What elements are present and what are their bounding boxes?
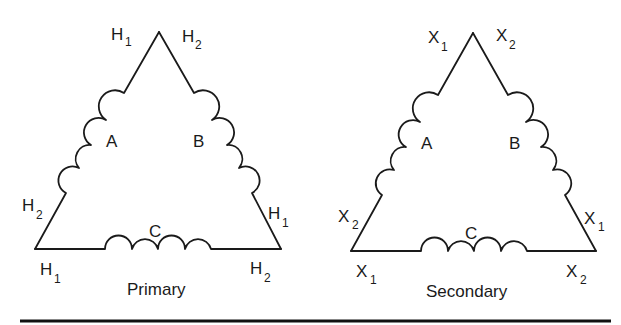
svg-text:1: 1	[441, 40, 448, 54]
svg-text:H: H	[40, 260, 52, 279]
secondary-winding-b-label: B	[509, 134, 520, 153]
svg-text:2: 2	[195, 38, 202, 52]
svg-text:H: H	[250, 259, 262, 278]
svg-text:2: 2	[36, 208, 43, 222]
primary-winding-b-label: B	[193, 132, 204, 151]
svg-text:2: 2	[264, 271, 271, 285]
svg-text:2: 2	[352, 218, 359, 232]
secondary-delta: A B C X 1 X 2 X 2 X 1 X 1 X 2 Secondary	[338, 26, 605, 301]
primary-terminal-bottom-right: H 2	[250, 259, 271, 285]
primary-winding-a	[35, 32, 159, 249]
svg-text:H: H	[22, 196, 34, 215]
primary-terminal-apex-right: H 2	[182, 27, 202, 52]
svg-text:1: 1	[282, 216, 289, 230]
svg-text:X: X	[584, 209, 595, 228]
svg-text:X: X	[496, 26, 507, 45]
primary-winding-c-label: C	[149, 222, 161, 241]
secondary-winding-a	[351, 33, 473, 251]
primary-winding-a-label: A	[106, 132, 118, 151]
svg-text:2: 2	[509, 38, 516, 52]
svg-text:H: H	[268, 204, 280, 223]
primary-delta: A B C H 1 H 2 H 2 H 1 H 1 H 2 Primary	[22, 25, 289, 299]
primary-terminal-right-side: H 1	[268, 204, 289, 230]
svg-text:H: H	[111, 25, 123, 44]
svg-text:2: 2	[580, 273, 587, 287]
secondary-terminal-bottom-left: X 1	[356, 262, 377, 287]
secondary-terminal-bottom-right: X 2	[566, 262, 587, 287]
primary-terminal-left-side: H 2	[22, 196, 43, 222]
primary-winding-b	[159, 32, 281, 249]
svg-text:X: X	[428, 28, 439, 47]
secondary-terminal-apex-right: X 2	[496, 26, 516, 52]
secondary-winding-a-label: A	[421, 134, 433, 153]
svg-text:1: 1	[598, 220, 605, 234]
delta-delta-transformer-diagram: A B C H 1 H 2 H 2 H 1 H 1 H 2 Primary	[0, 0, 621, 325]
svg-text:1: 1	[125, 35, 132, 49]
primary-caption: Primary	[127, 280, 186, 299]
secondary-terminal-apex-left: X 1	[428, 28, 448, 54]
secondary-winding-c-label: C	[465, 224, 477, 243]
secondary-winding-b	[473, 33, 596, 251]
secondary-terminal-left-side: X 2	[338, 207, 359, 232]
svg-text:1: 1	[370, 273, 377, 287]
svg-text:X: X	[566, 262, 577, 281]
svg-text:X: X	[356, 262, 367, 281]
secondary-terminal-right-side: X 1	[584, 209, 605, 234]
svg-text:1: 1	[54, 272, 61, 286]
primary-terminal-bottom-left: H 1	[40, 260, 61, 286]
primary-terminal-apex-left: H 1	[111, 25, 132, 49]
svg-text:H: H	[182, 27, 194, 46]
secondary-caption: Secondary	[426, 282, 508, 301]
svg-text:X: X	[338, 207, 349, 226]
